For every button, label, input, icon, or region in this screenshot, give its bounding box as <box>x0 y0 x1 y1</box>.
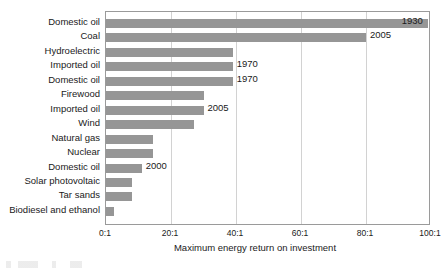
bar-row <box>106 120 431 129</box>
bar <box>106 106 204 115</box>
bar-value-annotation: 1970 <box>237 74 258 83</box>
bar-row <box>106 91 431 100</box>
x-axis-title-text: Maximum energy return on investment <box>174 242 336 253</box>
plot-area: 193020051970197020052000 <box>105 11 430 225</box>
bar-value-annotation: 1970 <box>237 59 258 68</box>
bar-value-annotation: 1930 <box>402 16 423 25</box>
bar-row <box>106 149 431 158</box>
bar <box>106 33 366 42</box>
category-label: Nuclear <box>0 147 100 157</box>
bar <box>106 19 428 28</box>
bar-chart: 193020051970197020052000 Domestic oilCoa… <box>0 0 448 270</box>
category-label: Natural gas <box>0 133 100 143</box>
bar-row <box>106 48 431 57</box>
bar-row: 1970 <box>106 77 431 86</box>
category-label: Tar sands <box>0 190 100 200</box>
category-label: Firewood <box>0 89 100 99</box>
bar <box>106 120 194 129</box>
bar-row: 2000 <box>106 164 431 173</box>
bar-value-annotation: 2000 <box>146 161 167 170</box>
bar-row <box>106 135 431 144</box>
x-tick-label: 80:1 <box>357 228 374 238</box>
category-label: Biodiesel and ethanol <box>0 205 100 215</box>
bar <box>106 207 114 216</box>
bar <box>106 135 153 144</box>
bar-row <box>106 178 431 187</box>
x-axis-title: Maximum energy return on investment <box>0 242 448 253</box>
bar-row <box>106 207 431 216</box>
category-label: Imported oil <box>0 60 100 70</box>
category-label: Domestic oil <box>0 75 100 85</box>
bar <box>106 77 233 86</box>
x-tick-label: 40:1 <box>227 228 244 238</box>
bar-row: 1930 <box>106 19 431 28</box>
category-label: Hydroelectric <box>0 46 100 56</box>
category-label: Solar photovoltaic <box>0 176 100 186</box>
bar <box>106 91 204 100</box>
bar <box>106 178 132 187</box>
x-tick-label: 60:1 <box>292 228 309 238</box>
bar-value-annotation: 2005 <box>370 30 391 39</box>
category-label: Domestic oil <box>0 17 100 27</box>
x-tick-label: 100:1 <box>419 228 440 238</box>
category-label: Coal <box>0 31 100 41</box>
category-label: Imported oil <box>0 104 100 114</box>
x-tick-label: 0:1 <box>99 228 111 238</box>
bar-row: 2005 <box>106 33 431 42</box>
bar <box>106 192 132 201</box>
bar-row: 1970 <box>106 62 431 71</box>
bar <box>106 149 153 158</box>
category-label: Wind <box>0 118 100 128</box>
bar <box>106 48 233 57</box>
category-label: Domestic oil <box>0 162 100 172</box>
bar <box>106 164 142 173</box>
bar-value-annotation: 2005 <box>208 103 229 112</box>
bar-row: 2005 <box>106 106 431 115</box>
bar-row <box>106 192 431 201</box>
bar <box>106 62 233 71</box>
x-tick-label: 20:1 <box>162 228 179 238</box>
cut-off-caption-fragment <box>4 261 124 268</box>
